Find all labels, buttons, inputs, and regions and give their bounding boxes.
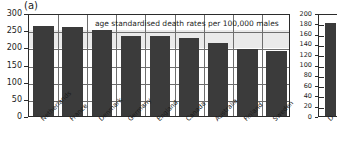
gridline-horizontal	[319, 25, 324, 26]
gridline-horizontal	[319, 67, 324, 68]
bar	[325, 23, 336, 116]
panel-b-x-axis-labels: D	[318, 118, 337, 168]
gridline-horizontal	[319, 56, 324, 57]
y-tick-label: 160	[296, 31, 312, 38]
panel-a: (a) 050100150200250300 age standardised …	[0, 0, 296, 168]
panel-a-y-axis: 050100150200250300	[0, 0, 28, 168]
y-tick-label: 300	[0, 10, 22, 18]
y-tick-label: 80	[296, 72, 312, 79]
panel-b: (b) 020406080100120140160180200 D	[296, 0, 337, 168]
y-tick-label: 20	[296, 103, 312, 110]
y-tick-label: 140	[296, 41, 312, 48]
gridline-horizontal	[319, 77, 324, 78]
bar	[92, 30, 112, 116]
y-tick-label: 120	[296, 52, 312, 59]
bar	[33, 26, 53, 116]
gridline-vertical	[87, 15, 88, 116]
panel-a-plot-area	[28, 14, 290, 117]
y-tick-label: 200	[296, 11, 312, 18]
gridline-horizontal	[319, 108, 324, 109]
y-tick-label: 0	[0, 113, 22, 121]
panel-b-plot-area	[318, 14, 337, 117]
y-tick-label: 60	[296, 83, 312, 90]
gridline-horizontal	[319, 87, 324, 88]
gridline-vertical	[262, 15, 263, 116]
gridline-horizontal	[319, 36, 324, 37]
y-tick-label: 200	[0, 44, 22, 52]
bar	[62, 27, 82, 116]
y-tick-label: 40	[296, 93, 312, 100]
y-tick-label: 100	[0, 79, 22, 87]
panel-b-y-axis: 020406080100120140160180200	[296, 0, 318, 168]
gridline-horizontal	[319, 46, 324, 47]
panel-a-annotation: age standardised death rates per 100,000…	[95, 19, 279, 28]
y-tick-label: 180	[296, 21, 312, 28]
figure-root: (a) 050100150200250300 age standardised …	[0, 0, 337, 168]
gridline-horizontal	[319, 97, 324, 98]
y-tick-label: 250	[0, 27, 22, 35]
y-tick-label: 100	[296, 62, 312, 69]
y-tick-label: 150	[0, 62, 22, 70]
y-tick-label: 0	[296, 114, 312, 121]
panel-a-x-axis-labels: NetherlandsFranceDenmarkGermanyEnglandCa…	[28, 118, 290, 168]
y-tick-label: 50	[0, 96, 22, 104]
